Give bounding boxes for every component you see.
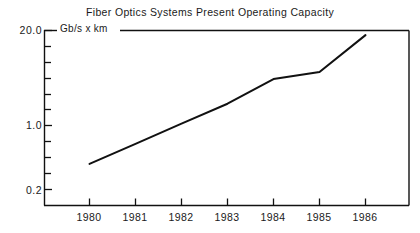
plot-svg	[0, 0, 420, 233]
axis-frame	[44, 30, 409, 206]
chart-container: Fiber Optics Systems Present Operating C…	[0, 0, 420, 233]
data-series-line	[90, 35, 366, 164]
x-axis-ticks	[90, 199, 366, 206]
y-axis-ticks	[45, 31, 53, 190]
